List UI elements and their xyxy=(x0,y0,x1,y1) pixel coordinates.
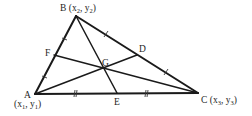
tick-mark-ec-2 xyxy=(147,90,148,97)
tick-mark-ec-1 xyxy=(145,90,146,97)
label-e: E xyxy=(114,97,120,107)
median-cf xyxy=(54,55,198,93)
label-a-coords: (x1, y1) xyxy=(14,99,41,110)
median-be xyxy=(76,16,117,93)
triangle-medians-diagram: B (x2, y2) F D G E A (x1, y1) C (x3, y3) xyxy=(0,0,252,116)
label-d: D xyxy=(139,44,146,54)
label-f: F xyxy=(45,48,50,58)
label-b: B (x2, y2) xyxy=(60,3,96,14)
label-g: G xyxy=(102,58,109,68)
tick-mark-ae-2 xyxy=(76,90,77,97)
tick-mark-ae-1 xyxy=(74,90,75,97)
median-ad xyxy=(35,55,137,94)
label-c: C (x3, y3) xyxy=(201,95,237,106)
